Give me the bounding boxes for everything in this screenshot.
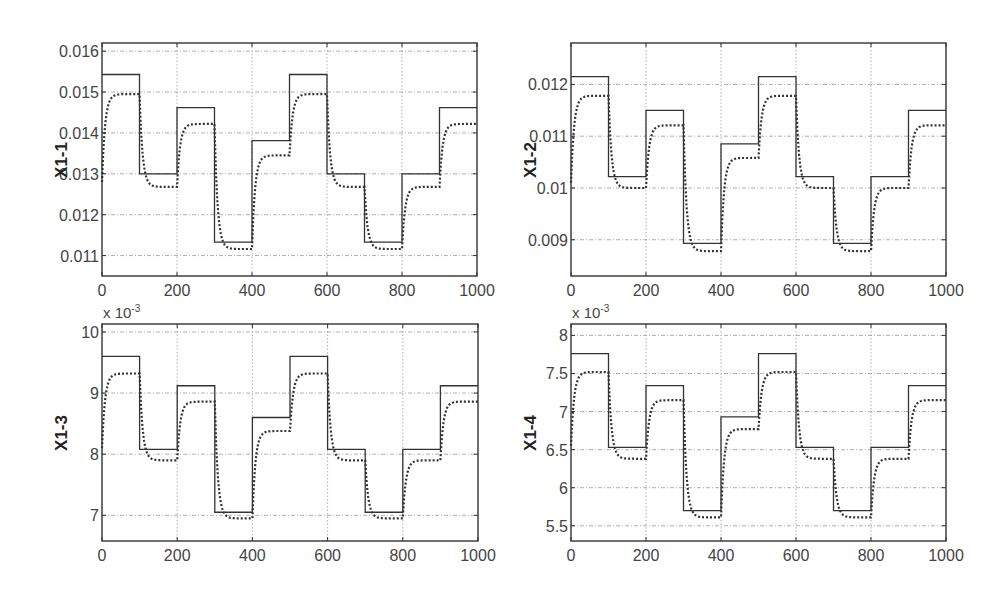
y-tick-label: 8 <box>559 327 568 344</box>
reference-line <box>102 356 478 512</box>
x-tick-label: 600 <box>314 547 341 564</box>
reference-line <box>571 77 946 244</box>
x-tick-label: 400 <box>239 282 266 299</box>
x-tick-label: 800 <box>858 282 885 299</box>
y-tick-label: 5.5 <box>546 518 568 535</box>
x-tick-label: 400 <box>239 547 266 564</box>
y-tick-label: 10 <box>81 324 99 341</box>
panel-4: 020040060080010005.566.577.58 <box>546 324 964 564</box>
y-tick-label: 0.015 <box>59 84 99 101</box>
y-tick-label: 7.5 <box>546 365 568 382</box>
panel-2-ylabel: X1-2 <box>521 142 541 178</box>
panel-1: 020040060080010000.0110.0120.0130.0140.0… <box>59 43 495 299</box>
panel-3-ylabel: X1-3 <box>52 415 72 451</box>
x-tick-label: 800 <box>389 282 416 299</box>
x-tick-label: 800 <box>389 547 416 564</box>
panel-3-exponent-label: x 10-3 <box>103 303 140 321</box>
y-tick-label: 6.5 <box>546 442 568 459</box>
reference-line <box>102 74 477 242</box>
y-tick-label: 0.014 <box>59 125 99 142</box>
y-tick-label: 0.01 <box>537 180 568 197</box>
x-tick-label: 800 <box>858 547 885 564</box>
x-tick-label: 600 <box>783 547 810 564</box>
panel-1-ylabel: X1-1 <box>52 142 72 178</box>
y-tick-label: 0.016 <box>59 43 99 60</box>
x-tick-label: 200 <box>164 282 191 299</box>
y-tick-label: 6 <box>559 480 568 497</box>
y-tick-label: 0.011 <box>60 248 99 265</box>
panel-4-ylabel: X1-4 <box>521 415 541 451</box>
x-tick-label: 400 <box>708 547 735 564</box>
x-tick-label: 0 <box>567 547 576 564</box>
x-tick-label: 0 <box>98 547 107 564</box>
x-tick-label: 1000 <box>459 282 495 299</box>
x-tick-label: 0 <box>567 282 576 299</box>
y-tick-label: 0.012 <box>59 207 99 224</box>
x-tick-label: 200 <box>164 547 191 564</box>
panel-4-exponent-label: x 10-3 <box>572 303 609 321</box>
reference-line <box>571 354 946 511</box>
y-tick-label: 7 <box>559 404 568 421</box>
x-tick-label: 600 <box>783 282 810 299</box>
y-tick-label: 9 <box>90 385 99 402</box>
y-tick-label: 0.012 <box>528 76 568 93</box>
x-tick-label: 1000 <box>928 547 964 564</box>
x-tick-label: 200 <box>633 282 660 299</box>
x-tick-label: 200 <box>633 547 660 564</box>
panel-3: 0200400600800100078910 <box>81 324 496 564</box>
x-tick-label: 1000 <box>460 547 496 564</box>
y-tick-label: 8 <box>90 446 99 463</box>
x-tick-label: 0 <box>98 282 107 299</box>
x-tick-label: 600 <box>314 282 341 299</box>
figure: 020040060080010000.0110.0120.0130.0140.0… <box>0 0 1002 597</box>
y-tick-label: 0.009 <box>528 232 568 249</box>
y-tick-label: 7 <box>90 507 99 524</box>
x-tick-label: 400 <box>708 282 735 299</box>
x-tick-label: 1000 <box>928 282 964 299</box>
panel-2: 020040060080010000.0090.010.0110.012 <box>528 43 964 299</box>
